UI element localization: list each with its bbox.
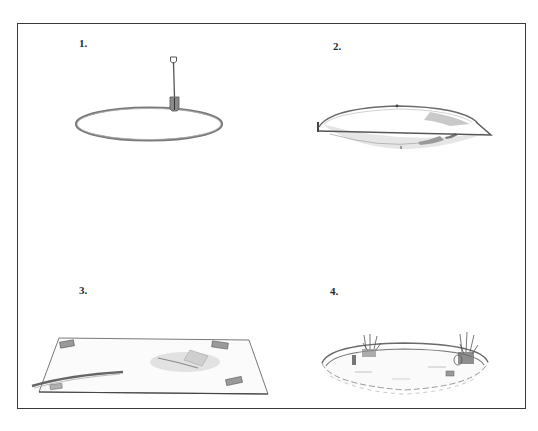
step-1-label: 1. <box>79 38 87 49</box>
step-3-label: 3. <box>79 285 87 296</box>
step-4-label: 4. <box>330 286 338 297</box>
step-2-label: 2. <box>333 41 341 52</box>
illustration-frame <box>17 23 526 409</box>
